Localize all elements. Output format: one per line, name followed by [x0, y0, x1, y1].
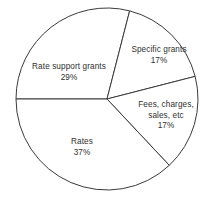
- pie-chart-canvas: [0, 0, 215, 204]
- pie-slices: [16, 8, 198, 190]
- pie-chart: Rate support grants 29% Specific grants …: [0, 0, 215, 204]
